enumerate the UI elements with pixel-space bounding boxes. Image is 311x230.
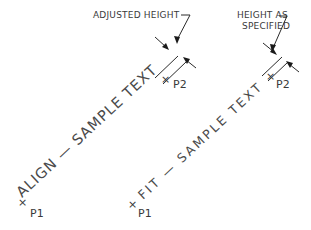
p1-cross-icon: × [18, 196, 27, 209]
align-panel: ADJUSTED HEIGHT ALIGN — SAMPLE TEXT × P2… [13, 10, 196, 220]
p1-cross-icon: × [128, 198, 137, 211]
leader-arrowhead-icon [174, 36, 180, 44]
adjusted-height-label: ADJUSTED HEIGHT [93, 10, 180, 20]
align-p2-label: P2 [173, 78, 187, 91]
diagram-canvas: ADJUSTED HEIGHT ALIGN — SAMPLE TEXT × P2… [0, 0, 311, 230]
align-sample-text: ALIGN — SAMPLE TEXT [13, 62, 160, 201]
height-as-specified-label-1: HEIGHT AS [237, 10, 288, 20]
fit-panel: HEIGHT AS SPECIFIED FIT — SAMPLE TEXT × … [128, 10, 299, 220]
align-p1-label: P1 [30, 207, 44, 220]
p2-cross-icon: × [266, 70, 275, 83]
p2-cross-icon: × [161, 73, 170, 86]
fit-p1-label: P1 [138, 207, 152, 220]
fit-sample-text: FIT — SAMPLE TEXT [135, 79, 266, 203]
fit-p2-label: P2 [276, 78, 290, 91]
